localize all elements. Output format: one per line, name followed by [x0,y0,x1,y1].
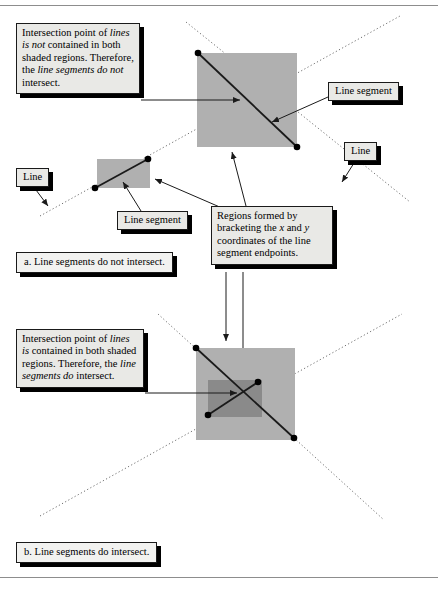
caption-panel-a: a. Line segments do not intersect. [16,252,173,273]
label-line-segment-left: Line segment [117,211,188,230]
text-segment: intersect. [22,77,60,88]
label-text: Line segment [335,85,392,96]
text-segment: and [284,222,304,233]
endpoint-dot [195,50,202,57]
label-line-right: Line [344,142,377,161]
text-segment-italic: y [304,222,309,233]
text-segment: coordinates of the line segment endpoint… [217,235,311,258]
endpoint-dot [291,435,298,442]
text-segment-italic: line segments do not [37,64,123,75]
text-segment: Intersection point of [22,333,110,344]
leader-a-line-right [342,163,354,182]
label-text: Line segment [124,214,181,225]
caption-panel-b: b. Line segments do intersect. [16,542,157,563]
endpoint-dot [294,144,301,151]
endpoint-dot [92,185,99,192]
endpoint-dot [193,345,200,352]
caption-text: b. Line segments do intersect. [24,546,149,557]
caption-text: a. Line segments do not intersect. [24,256,165,267]
endpoint-dot [145,156,152,163]
endpoint-dot [255,379,262,386]
label-text: Line [23,171,42,182]
label-line-segment-right: Line segment [328,82,399,101]
text-segment: intersect. [74,370,115,381]
leader-a-region-large [232,152,246,206]
label-line-left: Line [16,168,49,187]
callout-lines-do-intersect: Intersection point of lines is contained… [16,329,144,388]
leader-a-region-small [155,179,222,208]
callout-lines-do-not-intersect: Intersection point of lines is not conta… [16,23,140,94]
leader-a-line-left [36,190,48,206]
label-text: Line [351,145,370,156]
callout-regions-formed-by-bracketing: Regions formed by bracketing the x and y… [211,206,333,265]
figure-root: Intersection point of lines is not conta… [0,0,438,590]
text-segment: Intersection point of [22,27,110,38]
endpoint-dot [205,412,212,419]
